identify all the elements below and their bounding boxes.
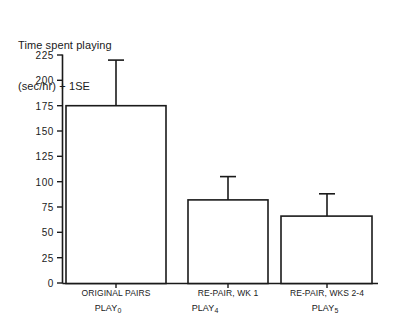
bar-original-pairs <box>66 106 166 284</box>
plot-area: 225 200 175 150 125 100 75 50 25 0 <box>0 0 402 327</box>
x-category-label-1: RE-PAIR, WK 1 <box>198 288 259 298</box>
x-category-label-0: ORIGINAL PAIRS <box>82 288 151 298</box>
x-category-sublabel-2: PLAY5 <box>312 303 339 313</box>
x-category-sublabel-2-sub: 5 <box>334 307 338 314</box>
x-category-sublabel-2-base: PLAY <box>312 303 335 313</box>
x-category-sublabel-1: PLAY4 <box>192 303 219 313</box>
x-category-label-2: RE-PAIR, WKS 2-4 <box>290 288 364 298</box>
x-category-sublabel-0-base: PLAY <box>95 303 118 313</box>
bar-repair-wks2-4 <box>281 216 372 283</box>
chart-canvas <box>0 0 402 327</box>
error-bar-repair-wk1 <box>220 177 236 200</box>
bar-repair-wk1 <box>188 200 268 284</box>
error-bar-original-pairs <box>108 60 124 106</box>
x-category-sublabel-0: PLAY0 <box>95 303 122 313</box>
x-category-sublabel-1-sub: 4 <box>214 307 218 314</box>
x-category-sublabel-0-sub: 0 <box>117 307 121 314</box>
y-tick-marks <box>57 55 63 283</box>
error-bar-repair-wks2-4 <box>319 194 335 216</box>
bar-chart-figure: Time spent playing (sec/hr) + 1SE 225 20… <box>0 0 402 327</box>
x-category-sublabel-1-base: PLAY <box>192 303 215 313</box>
